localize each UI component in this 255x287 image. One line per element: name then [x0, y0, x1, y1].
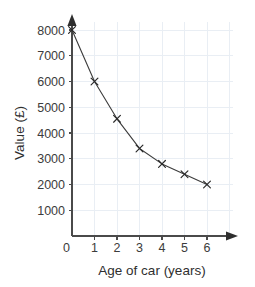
y-tick-label-5000: 5000: [37, 101, 65, 115]
x-tick-label-3: 3: [136, 241, 143, 255]
y-tick-label-7000: 7000: [37, 49, 65, 63]
x-tick-label-5: 5: [181, 241, 188, 255]
x-tick-label-2: 2: [114, 241, 121, 255]
y-tick-label-0: 0: [63, 241, 70, 255]
x-tick-label-1: 1: [91, 241, 98, 255]
chart-canvas: 8000 7000 6000 5000 4000 3000 2000 1000 …: [0, 0, 255, 287]
line-chart: 8000 7000 6000 5000 4000 3000 2000 1000 …: [0, 0, 255, 287]
x-tick-label-4: 4: [159, 241, 166, 255]
y-tick-label-2000: 2000: [37, 178, 65, 192]
x-tick-label-6: 6: [204, 241, 211, 255]
y-tick-label-6000: 6000: [37, 75, 65, 89]
y-tick-label-4000: 4000: [37, 127, 65, 141]
y-tick-label-8000: 8000: [37, 24, 65, 38]
y-axis-title: Value (£): [12, 106, 27, 160]
chart-background: [0, 0, 255, 287]
y-tick-label-1000: 1000: [37, 204, 65, 218]
x-axis-title: Age of car (years): [98, 263, 205, 278]
y-tick-label-3000: 3000: [37, 152, 65, 166]
